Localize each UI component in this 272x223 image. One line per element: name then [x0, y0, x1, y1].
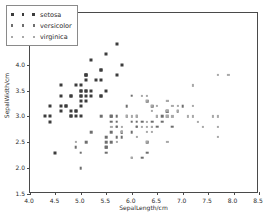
- data-point-setosa: [105, 53, 108, 56]
- x-axis-tick-label: 7.0: [177, 197, 187, 204]
- data-point-setosa: [79, 105, 82, 108]
- legend-item-versicolor: versicolor: [11, 20, 72, 31]
- x-axis-tick: [259, 192, 260, 195]
- data-point-setosa: [90, 89, 93, 92]
- data-point-virginica: [141, 95, 143, 97]
- data-point-virginica: [151, 110, 153, 112]
- data-point-versicolor: [156, 125, 159, 128]
- data-point-virginica: [131, 157, 133, 159]
- data-point-versicolor: [85, 141, 88, 144]
- data-point-versicolor: [90, 131, 93, 134]
- data-point-setosa: [49, 105, 52, 108]
- y-axis-tick-label: 1.5: [15, 190, 25, 197]
- x-axis-tick-label: 4.5: [50, 197, 60, 204]
- data-point-setosa: [49, 115, 52, 118]
- data-point-versicolor: [110, 120, 113, 123]
- data-point-versicolor: [80, 167, 83, 170]
- data-point-setosa: [69, 115, 72, 118]
- data-point-virginica: [110, 126, 112, 128]
- x-axis-tick-label: 7.5: [202, 197, 212, 204]
- data-point-versicolor: [75, 146, 78, 149]
- data-point-setosa: [79, 84, 82, 87]
- y-axis-tick-label: 2.5: [15, 138, 25, 145]
- data-point-setosa: [59, 105, 62, 108]
- data-point-virginica: [171, 115, 173, 117]
- data-point-setosa: [115, 43, 118, 46]
- data-point-virginica: [151, 126, 153, 128]
- data-point-virginica: [146, 141, 148, 143]
- data-point-versicolor: [136, 125, 139, 128]
- legend-label-versicolor: versicolor: [40, 22, 72, 30]
- data-point-setosa: [84, 94, 87, 97]
- data-point-versicolor: [141, 157, 144, 160]
- data-point-virginica: [146, 95, 148, 97]
- data-point-setosa: [84, 79, 87, 82]
- data-point-setosa: [44, 115, 47, 118]
- data-point-versicolor: [151, 120, 154, 123]
- data-point-versicolor: [141, 120, 144, 123]
- data-point-setosa: [79, 94, 82, 97]
- data-point-setosa: [79, 115, 82, 118]
- data-point-virginica: [187, 115, 189, 117]
- data-point-versicolor: [115, 120, 118, 123]
- data-point-versicolor: [110, 131, 113, 134]
- data-point-virginica: [141, 126, 143, 128]
- data-point-setosa: [64, 105, 67, 108]
- data-point-versicolor: [105, 136, 108, 139]
- data-point-virginica: [151, 105, 153, 107]
- data-point-setosa: [100, 79, 103, 82]
- data-point-virginica: [136, 115, 138, 117]
- data-point-virginica: [197, 121, 199, 123]
- data-point-versicolor: [115, 136, 118, 139]
- data-point-versicolor: [105, 146, 108, 149]
- x-axis-tick-label: 5.0: [75, 197, 85, 204]
- data-point-virginica: [217, 126, 219, 128]
- data-point-setosa: [100, 94, 103, 97]
- data-point-setosa: [59, 94, 62, 97]
- data-point-setosa: [115, 74, 118, 77]
- data-point-versicolor: [130, 94, 133, 97]
- x-axis-tick-label: 5.5: [101, 197, 111, 204]
- data-point-virginica: [166, 115, 168, 117]
- data-point-virginica: [202, 126, 204, 128]
- data-point-virginica: [212, 115, 214, 117]
- x-axis-tick-label: 8.5: [253, 197, 263, 204]
- data-point-virginica: [171, 105, 173, 107]
- data-point-setosa: [90, 58, 93, 61]
- y-axis-tick-label: 3.5: [15, 86, 25, 93]
- data-point-setosa: [120, 63, 123, 66]
- data-point-virginica: [176, 105, 178, 107]
- data-point-setosa: [100, 68, 103, 71]
- data-point-versicolor: [110, 141, 113, 144]
- data-point-setosa: [74, 115, 77, 118]
- data-point-versicolor: [105, 141, 108, 144]
- x-axis-tick-label: 6.5: [151, 197, 161, 204]
- data-point-versicolor: [161, 120, 164, 123]
- data-point-setosa: [95, 79, 98, 82]
- data-point-versicolor: [105, 151, 108, 154]
- data-point-setosa: [105, 89, 108, 92]
- data-point-setosa: [90, 94, 93, 97]
- data-point-virginica: [192, 84, 194, 86]
- data-point-versicolor: [125, 105, 128, 108]
- data-point-virginica: [136, 136, 138, 138]
- y-axis-tick-label: 2.0: [15, 164, 25, 171]
- figure-canvas: 4.04.55.05.56.06.57.07.58.08.5 1.52.02.5…: [0, 0, 272, 223]
- data-point-versicolor: [115, 115, 118, 118]
- data-point-setosa: [84, 89, 87, 92]
- data-point-virginica: [166, 110, 168, 112]
- data-point-versicolor: [146, 151, 149, 154]
- data-point-versicolor: [161, 115, 164, 118]
- legend-marker-versicolor-icon: [11, 24, 35, 26]
- y-axis-label: SepalWidth/cm: [3, 61, 10, 131]
- data-point-virginica: [192, 105, 194, 107]
- data-point-virginica: [146, 100, 148, 102]
- data-point-versicolor: [130, 120, 133, 123]
- legend-item-virginica: virginica: [11, 31, 72, 42]
- data-point-setosa: [74, 84, 77, 87]
- data-point-virginica: [217, 136, 219, 138]
- data-point-setosa: [74, 110, 77, 113]
- data-point-setosa: [79, 89, 82, 92]
- data-point-virginica: [115, 141, 117, 143]
- data-point-versicolor: [136, 120, 139, 123]
